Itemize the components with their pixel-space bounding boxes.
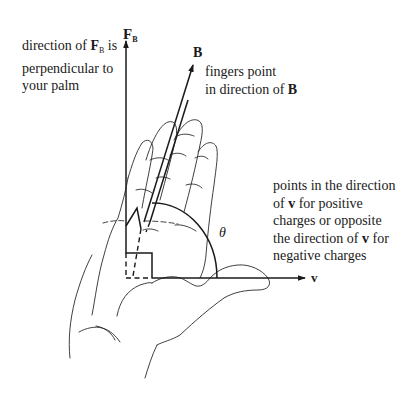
thumb-annotation-line-5: negative charges xyxy=(273,247,395,265)
force-annotation-line-1: direction of FB is xyxy=(22,37,117,60)
field-annotation-line-1: fingers point xyxy=(205,63,297,81)
thumb-annotation-line-3: charges or opposite xyxy=(273,212,395,230)
force-vector-label: FB xyxy=(123,26,138,49)
angle-theta-label: θ xyxy=(219,224,226,242)
thumb-annotation: points in the direction of v for positiv… xyxy=(273,177,395,265)
thumb-annotation-line-4: the direction of v for xyxy=(273,230,395,248)
force-annotation-line-3: your palm xyxy=(22,77,117,95)
force-annotation: direction of FB is perpendicular to your… xyxy=(22,37,117,95)
field-annotation: fingers point in direction of B xyxy=(205,63,297,98)
force-annotation-line-2: perpendicular to xyxy=(22,60,117,78)
thumb-annotation-line-2: of v for positive xyxy=(273,195,395,213)
right-hand-rule-diagram: FB B v θ direction of FB is perpendicula… xyxy=(0,0,415,399)
field-vector-label: B xyxy=(193,44,202,62)
thumb-annotation-line-1: points in the direction xyxy=(273,177,395,195)
velocity-vector-label: v xyxy=(311,269,318,287)
field-annotation-line-2: in direction of B xyxy=(205,81,297,99)
hidden-lines xyxy=(126,222,152,278)
